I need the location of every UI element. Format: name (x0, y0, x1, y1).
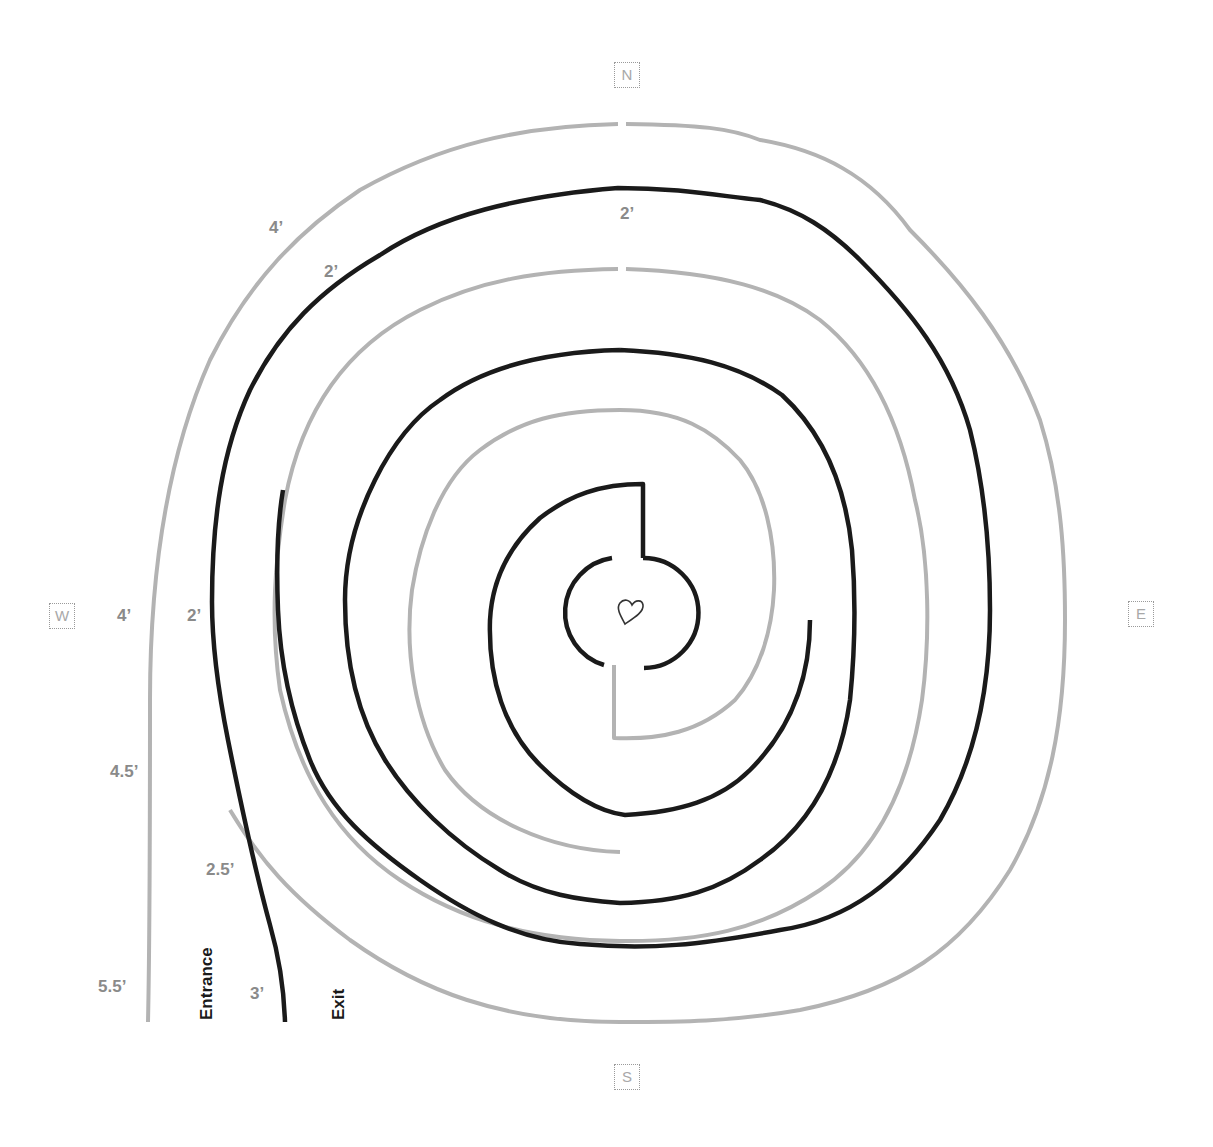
middle-gray-wall (275, 269, 928, 941)
entrance-label: Entrance (197, 947, 217, 1020)
dimension-outer-west: 4’ (117, 606, 131, 626)
dimension-inner-top-left: 2’ (324, 262, 338, 282)
exit-label: Exit (329, 989, 349, 1020)
middle-black-wall (345, 350, 854, 903)
dimension-inner-west: 2’ (187, 606, 201, 626)
spiral-maze-diagram (0, 0, 1213, 1147)
outer-black-wall (212, 188, 990, 1022)
compass-west: W (49, 603, 75, 629)
dimension-outer-top-left: 4’ (269, 218, 283, 238)
dimension-inner-southwest: 2.5’ (206, 860, 234, 880)
compass-east: E (1128, 601, 1154, 627)
compass-north: N (614, 62, 640, 88)
dimension-top-center: 2’ (620, 204, 634, 224)
dimension-outer-bottom: 5.5’ (98, 977, 126, 997)
dimension-outer-southwest: 4.5’ (110, 762, 138, 782)
inner-gray-wall (409, 410, 774, 852)
heart-icon (618, 600, 643, 624)
center-circle-wall-left (565, 558, 612, 665)
center-circle-wall-right (643, 558, 698, 668)
compass-south: S (614, 1064, 640, 1090)
dimension-inner-bottom: 3’ (250, 984, 264, 1004)
